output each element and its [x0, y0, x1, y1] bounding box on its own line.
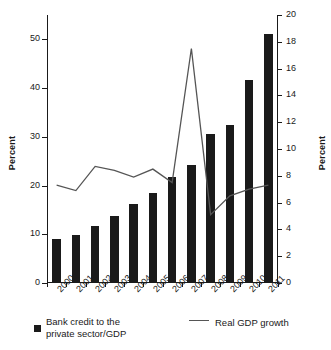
right-tick-label: 20	[286, 10, 326, 19]
right-tick-label: 6	[286, 198, 326, 207]
right-tick-label: 8	[286, 171, 326, 180]
legend-label-bank-credit: Bank credit to theprivate sector/GDP	[46, 316, 158, 340]
right-tick-label: 0	[286, 278, 326, 287]
chart-legend: Bank credit to theprivate sector/GDP Rea…	[34, 316, 331, 350]
real-gdp-growth-line	[57, 49, 269, 215]
left-tick-label: 0	[0, 278, 40, 287]
legend-label-bank-credit-line1: Bank credit to the	[46, 316, 120, 327]
left-tick-label: 30	[0, 132, 40, 141]
left-tick-label: 20	[0, 181, 40, 190]
chart-figure: Percent Percent 01020304050 024681012141…	[0, 0, 331, 350]
plot-area: 01020304050 02468101214161820	[47, 15, 278, 283]
legend-item-gdp-growth: Real GDP growth	[189, 316, 331, 328]
right-tick-label: 12	[286, 117, 326, 126]
right-tick-label: 10	[286, 144, 326, 153]
left-tick-label: 50	[0, 34, 40, 43]
bar-swatch-icon	[34, 325, 41, 332]
right-tick-label: 4	[286, 224, 326, 233]
left-tick-label: 10	[0, 229, 40, 238]
right-tick-label: 18	[286, 37, 326, 46]
right-tick-label: 14	[286, 90, 326, 99]
legend-item-bank-credit: Bank credit to theprivate sector/GDP	[34, 316, 184, 340]
legend-label-bank-credit-line2: private sector/GDP	[46, 328, 126, 339]
right-tick-label: 16	[286, 64, 326, 73]
legend-label-gdp-growth: Real GDP growth	[215, 317, 289, 328]
line-swatch-icon	[189, 320, 209, 321]
left-tick-label: 40	[0, 83, 40, 92]
line-series	[47, 15, 278, 283]
right-tick-label: 2	[286, 251, 326, 260]
